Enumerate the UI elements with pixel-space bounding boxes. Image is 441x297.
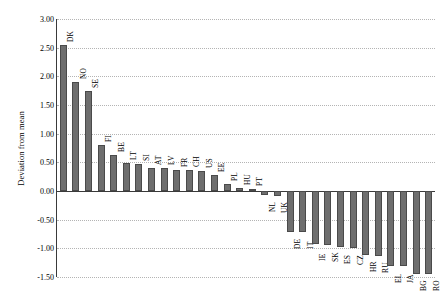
bar-group: UK [274, 19, 281, 277]
y-axis-tick-label: 0.50 [18, 158, 54, 167]
bar-category-label: RO [432, 280, 441, 291]
bar [110, 155, 117, 191]
plot-area: DKNOSEFIBELTSIATLVFRCHUSEEPLHUPTNLUKDEIT… [56, 19, 434, 277]
bar [148, 168, 155, 191]
bar-series: DKNOSEFIBELTSIATLVFRCHUSEEPLHUPTNLUKDEIT… [57, 19, 435, 277]
bar [375, 191, 382, 256]
bar [60, 45, 67, 191]
y-axis-tick-label: -1.00 [18, 244, 54, 253]
bar-group: SE [85, 19, 92, 277]
bar [123, 163, 130, 191]
bar [350, 191, 357, 248]
bar [85, 91, 92, 191]
bar-group: BG [413, 19, 420, 277]
bar [324, 191, 331, 245]
bar-group: JA [400, 19, 407, 277]
bar-group: NL [261, 19, 268, 277]
bar-group: HR [362, 19, 369, 277]
bar [274, 191, 281, 196]
bar [224, 184, 231, 191]
bar-group: US [198, 19, 205, 277]
bar [249, 189, 256, 191]
bar [400, 191, 407, 266]
bar [287, 191, 294, 232]
bar-group: LT [123, 19, 130, 277]
bar [173, 170, 180, 191]
bar [98, 145, 105, 191]
bar [387, 191, 394, 266]
bar-group: ES [337, 19, 344, 277]
bar-group: PT [249, 19, 256, 277]
bar-group: LV [161, 19, 168, 277]
bar-group: AT [148, 19, 155, 277]
bar-group: DE [287, 19, 294, 277]
y-axis-tick-label: 1.50 [18, 101, 54, 110]
y-axis-tick-label: -1.50 [18, 273, 54, 282]
bar [299, 191, 306, 232]
bar-group: FI [98, 19, 105, 277]
y-axis-tick-label: 2.00 [18, 72, 54, 81]
bar-group: RU [375, 19, 382, 277]
bar-group: FR [173, 19, 180, 277]
y-axis-tick-label: 2.50 [18, 43, 54, 52]
y-axis-tick-label: 1.00 [18, 129, 54, 138]
bar [135, 164, 142, 191]
bar-chart: Deviation from mean 3.002.502.001.501.00… [0, 0, 441, 297]
bar-group: EL [387, 19, 394, 277]
bar-group: CH [186, 19, 193, 277]
y-axis-tick-label: 0.00 [18, 187, 54, 196]
bar [312, 191, 319, 244]
bar-group: SI [135, 19, 142, 277]
y-axis-tick-label: -0.50 [18, 215, 54, 224]
bar-group: IE [312, 19, 319, 277]
bar [362, 191, 369, 255]
bar [211, 175, 218, 191]
bar-group: HU [236, 19, 243, 277]
bar [413, 191, 420, 274]
bar-group: RO [425, 19, 432, 277]
bar-group: DK [60, 19, 67, 277]
bar-group: EE [211, 19, 218, 277]
bar-group: PL [224, 19, 231, 277]
bar [236, 188, 243, 191]
bar [337, 191, 344, 247]
bar [186, 170, 193, 191]
bar [198, 171, 205, 191]
bar-group: SK [324, 19, 331, 277]
bar-group: CZ [350, 19, 357, 277]
gridline [57, 277, 435, 278]
y-axis-ticks: 3.002.502.001.501.000.500.00-0.50-1.00-1… [18, 0, 54, 297]
bar-group: IT [299, 19, 306, 277]
bar [72, 82, 79, 191]
bar [261, 191, 268, 195]
y-axis-tick-label: 3.00 [18, 15, 54, 24]
bar [161, 168, 168, 191]
bar-group: BE [110, 19, 117, 277]
bar-category-label: BG [419, 280, 428, 291]
bar-group: NO [72, 19, 79, 277]
bar [425, 191, 432, 274]
